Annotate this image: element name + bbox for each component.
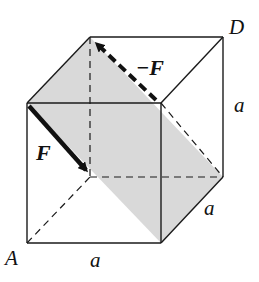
force-f-label: F: [35, 140, 51, 165]
force-neg-f-label: −F: [136, 55, 164, 80]
edge-right-label: a: [234, 93, 245, 117]
cube-diagram: D A F −F a a a: [0, 0, 259, 282]
edge-depth-label: a: [204, 196, 215, 220]
vertex-a-label: A: [3, 246, 18, 270]
vertex-d-label: D: [228, 15, 244, 39]
edge-bottom-label: a: [90, 248, 101, 272]
